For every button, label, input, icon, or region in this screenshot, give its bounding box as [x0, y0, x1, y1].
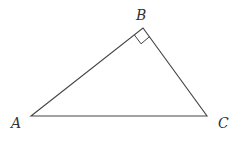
- right-angle-marker: [134, 35, 150, 44]
- vertex-label-b: B: [135, 7, 146, 23]
- triangle-diagram: A B C: [0, 0, 242, 145]
- vertex-label-c: C: [218, 115, 229, 131]
- vertex-label-a: A: [9, 115, 21, 131]
- triangle-abc: [31, 28, 207, 116]
